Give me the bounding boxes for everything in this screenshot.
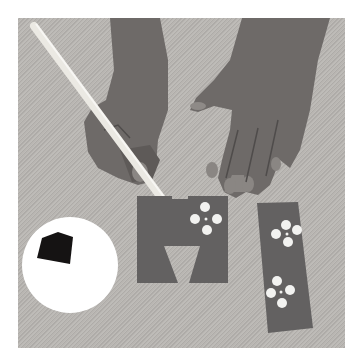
photograph (18, 18, 345, 348)
scene (18, 18, 345, 348)
paint-palette (22, 217, 118, 313)
square-stencil (137, 196, 228, 283)
strip-stencil (257, 202, 313, 333)
right-hand (190, 18, 330, 198)
left-hand (84, 18, 168, 185)
